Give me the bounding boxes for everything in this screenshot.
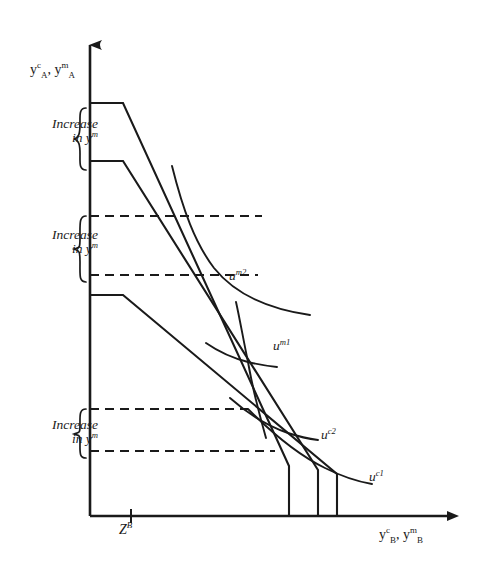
- z-sup: B: [127, 520, 132, 530]
- x-axis-label: ycB, ymB: [379, 528, 423, 543]
- curve-label-uc1: uc1: [369, 470, 384, 484]
- y-axis-label-text: ycA, ymA: [30, 62, 75, 77]
- indifference-curve-um2: [172, 166, 310, 315]
- brace-label-increase-3: Increase in ym: [14, 418, 98, 446]
- curve-label-um2: um2: [229, 269, 246, 283]
- diagram-canvas: [0, 0, 491, 579]
- brace-label-line2: in ym: [14, 131, 98, 145]
- indifference-curve-uc1: [248, 409, 372, 484]
- brace-group: [74, 108, 86, 458]
- z-base: Z: [119, 522, 127, 537]
- brace-label-line2: in ym: [14, 432, 98, 446]
- y-axis-label: ycA, ymA: [30, 63, 75, 78]
- curve-label-um1: um1: [273, 339, 290, 353]
- indifference-curve-um1-upper: [236, 302, 266, 438]
- budget-line-1: [90, 103, 289, 516]
- brace-label-line2: in ym: [14, 242, 98, 256]
- x-axis-label-text: ycB, ymB: [379, 527, 423, 542]
- x-tick-label-zb: ZB: [119, 523, 132, 538]
- brace-label-increase-2: Increase in ym: [14, 228, 98, 256]
- curve-label-uc2: uc2: [321, 428, 336, 442]
- dashed-gridlines: [90, 216, 275, 451]
- budget-line-3: [90, 295, 337, 516]
- brace-label-increase-1: Increase in ym: [14, 117, 98, 145]
